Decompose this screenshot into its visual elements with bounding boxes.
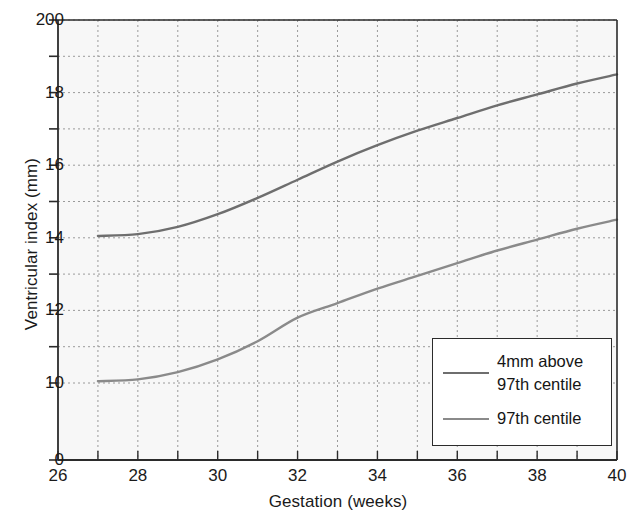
legend-label-97th-centile: 97th centile [497, 407, 581, 430]
x-tick-label: 28 [108, 466, 168, 486]
y-tick-label: 18 [4, 83, 64, 103]
y-tick-label: 10 [4, 373, 64, 393]
chart-legend: 4mm above 97th centile 97th centile [432, 338, 612, 446]
y-tick-label: 14 [4, 228, 64, 248]
x-tick-label: 32 [268, 466, 328, 486]
x-tick-label: 30 [188, 466, 248, 486]
y-tick-label: 12 [4, 300, 64, 320]
legend-label-4mm-above-97th: 4mm above 97th centile [497, 350, 583, 396]
x-tick-label: 38 [507, 466, 567, 486]
x-tick-label: 26 [28, 466, 88, 486]
legend-entry-4mm-above-97th: 4mm above 97th centile [443, 350, 583, 396]
y-tick-label: 200 [4, 10, 64, 30]
x-tick-label: 40 [587, 466, 630, 486]
legend-swatch-4mm-above-97th [443, 372, 489, 374]
ventricular-index-chart: Ventricular index (mm) Gestation (weeks)… [0, 0, 630, 519]
legend-entry-97th-centile: 97th centile [443, 407, 581, 430]
x-axis-title: Gestation (weeks) [58, 492, 618, 512]
y-tick-label: 16 [4, 155, 64, 175]
legend-swatch-97th-centile [443, 418, 489, 420]
x-tick-label: 36 [427, 466, 487, 486]
x-tick-label: 34 [347, 466, 407, 486]
